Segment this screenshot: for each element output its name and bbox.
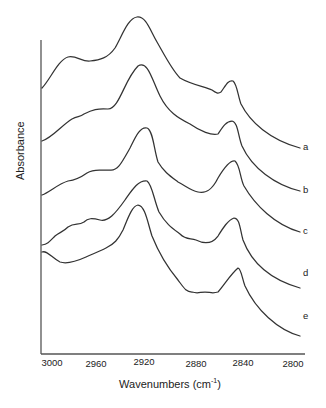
x-tick-3000: 3000 [41, 357, 62, 368]
x-tick-2840: 2840 [232, 357, 253, 368]
series-label-b: b [303, 184, 308, 195]
x-tick-2800: 2800 [282, 358, 303, 369]
series-label-a: a [303, 141, 308, 152]
x-axis-title: Wavenumbers (cm-1) [0, 377, 326, 390]
spectrum-e [42, 205, 300, 336]
series-label-e: e [303, 310, 308, 321]
x-tick-2880: 2880 [185, 358, 206, 369]
y-axis-title: Absorbance [14, 121, 26, 180]
x-axis-title-close: ) [217, 378, 221, 390]
x-tick-2920: 2920 [133, 356, 154, 367]
x-axis-title-text: Wavenumbers (cm [119, 378, 211, 390]
x-tick-2960: 2960 [85, 358, 106, 369]
spectrum-c [42, 128, 300, 232]
series-label-d: d [303, 267, 308, 278]
ir-spectra-plot [0, 0, 326, 408]
spectrum-a [42, 17, 300, 148]
series-label-c: c [303, 225, 308, 236]
